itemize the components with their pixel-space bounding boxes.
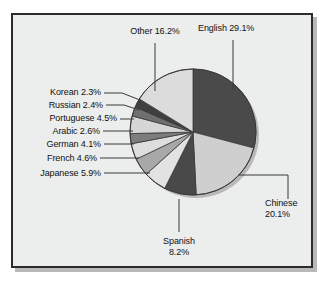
slice-label-chinese-name: Chinese — [265, 198, 297, 209]
chart-screenshot: Other 16.2% English 29.1% Korean 2.3% Ru… — [0, 0, 327, 283]
slice-label-french: French 4.6% — [0, 153, 97, 164]
slice-label-spanish-value: 8.2% — [146, 247, 212, 258]
slice-label-chinese-value: 20.1% — [265, 209, 290, 220]
slice-label-english: English 29.1% — [198, 23, 254, 34]
slice-label-japanese: Japanese 5.9% — [0, 168, 101, 179]
pie-slices-group — [130, 69, 256, 195]
slice-label-arabic: Arabic 2.6% — [0, 126, 100, 137]
slice-label-german: German 4.1% — [0, 139, 101, 150]
slice-label-portuguese: Portuguese 4.5% — [0, 113, 117, 124]
slice-label-spanish-name: Spanish — [146, 236, 212, 247]
slice-label-other: Other 16.2% — [104, 26, 206, 37]
slice-label-russian: Russian 2.4% — [0, 100, 103, 111]
slice-label-korean: Korean 2.3% — [0, 87, 101, 98]
